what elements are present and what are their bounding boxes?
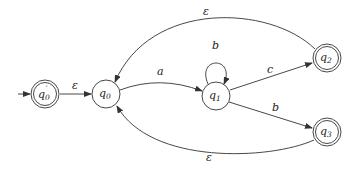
edge-label: a <box>157 65 164 78</box>
edge-q1-q3: b <box>229 101 312 128</box>
edge-q1-loop: b <box>206 39 227 84</box>
edge-label: b <box>212 39 219 52</box>
state-q3: q3 <box>313 118 341 146</box>
state-q0: q0 <box>92 80 120 108</box>
edge-q0-q1: a <box>120 65 202 91</box>
state-q0-prime: q0′ <box>31 80 59 108</box>
edge-label: ε <box>203 5 209 18</box>
edge-q0p-q0: ε <box>60 79 91 94</box>
state-q2: q2 <box>313 44 341 72</box>
edge-q1-q2: c <box>230 63 312 90</box>
edge-label: ε <box>206 151 212 164</box>
state-q1: q1 <box>202 82 230 110</box>
edge-q3-q0: ε <box>117 106 314 164</box>
edge-label: b <box>272 101 279 114</box>
automaton-diagram: ε a b c b ε ε q0′ q0 q1 <box>0 0 360 170</box>
edge-label: c <box>267 63 273 76</box>
edge-label: ε <box>72 79 78 92</box>
